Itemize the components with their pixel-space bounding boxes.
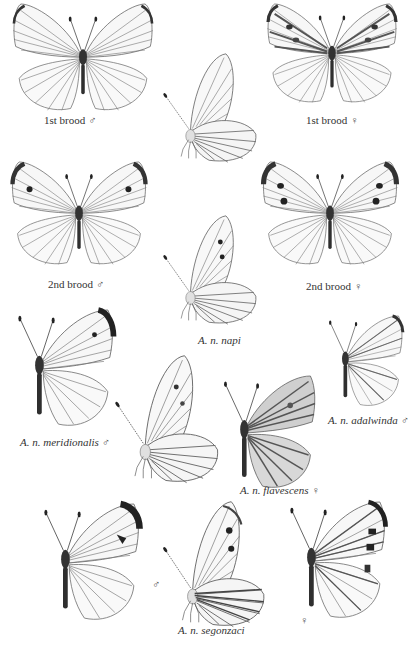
butterfly-segonzaci-male (36, 504, 148, 620)
female-symbol: ♀ (350, 114, 358, 126)
butterfly-2nd-brood-male (3, 162, 155, 266)
butterfly-illustration (160, 500, 270, 626)
figure-label: A. n. napi (198, 334, 241, 346)
butterfly-illustration (36, 504, 148, 620)
butterfly-illustration (156, 214, 266, 326)
butterfly-illustration (326, 316, 406, 406)
butterfly-illustration (282, 502, 394, 618)
figure-label: 1st brood♀ (306, 114, 359, 126)
butterfly-underside-segonzaci (160, 500, 270, 626)
figure-label: 2nd brood♂ (48, 278, 104, 290)
butterfly-2nd-brood-female (254, 162, 406, 266)
figure-label: A. n. flavescens♀ (240, 484, 320, 496)
butterfly-adalwinda-male (326, 316, 406, 406)
female-symbol: ♀ (300, 614, 308, 626)
butterfly-underside-1st-brood (156, 52, 266, 164)
female-symbol: ♀ (354, 280, 362, 292)
butterfly-1st-brood-male (3, 4, 163, 112)
butterfly-illustration (258, 4, 406, 104)
male-symbol: ♂ (96, 278, 104, 290)
butterfly-meridionalis-male (12, 310, 120, 426)
butterfly-illustration (220, 376, 320, 488)
male-symbol: ♂ (152, 578, 160, 590)
butterfly-illustration (3, 4, 163, 112)
butterfly-1st-brood-female (258, 4, 406, 104)
figure-label: A. n. meridionalis♂ (20, 436, 110, 448)
female-symbol: ♀ (311, 484, 319, 496)
butterfly-illustration (254, 162, 406, 266)
figure-label: A. n. segonzaci (178, 624, 245, 636)
figure-label: 1st brood♂ (44, 114, 97, 126)
butterfly-underside-napi (156, 214, 266, 326)
male-symbol: ♂ (88, 114, 96, 126)
male-symbol: ♂ (401, 414, 409, 426)
butterfly-flavescens-female (220, 376, 320, 488)
butterfly-illustration (156, 52, 266, 164)
butterfly-underside-meridionalis (112, 354, 224, 482)
figure-label: A. n. adalwinda♂ (328, 414, 409, 426)
male-symbol: ♂ (102, 436, 110, 448)
butterfly-segonzaci-female (282, 502, 394, 618)
butterfly-illustration (12, 310, 120, 426)
butterfly-illustration (112, 354, 224, 482)
butterfly-illustration (3, 162, 155, 266)
figure-label: 2nd brood♀ (306, 280, 362, 292)
